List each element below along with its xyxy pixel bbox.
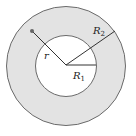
point-marker — [30, 29, 34, 33]
annulus-diagram: r R1 R2 — [0, 0, 136, 136]
inner-circle — [36, 36, 97, 97]
